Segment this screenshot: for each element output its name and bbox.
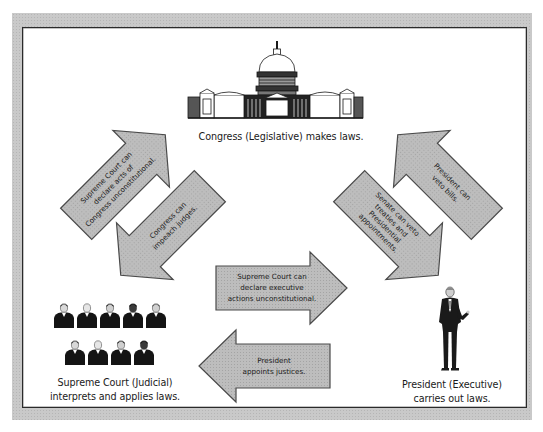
checks-and-balances-diagram: Supreme Court can declare acts of Congre…	[0, 0, 543, 432]
executive-caption: President (Executive) carries out laws.	[392, 378, 512, 406]
arrow-text-line: declare executive	[240, 283, 304, 292]
justice-figure	[100, 304, 120, 328]
arrow-executive-to-judicial: President appoints justices.	[199, 330, 330, 402]
executive-caption-line2: carries out laws.	[392, 392, 512, 406]
justice-figure	[123, 304, 143, 328]
judicial-caption-line2: interprets and applies laws.	[40, 390, 190, 404]
arrow-text-line: President	[257, 356, 291, 365]
justice-figure	[111, 341, 131, 365]
justice-figure	[54, 304, 74, 328]
arrow-text-line: appoints justices.	[243, 367, 306, 376]
legislative-caption: Congress (Legislative) makes laws.	[196, 130, 366, 144]
arrow-text-line: Supreme Court can	[237, 272, 307, 281]
judicial-caption-line1: Supreme Court (Judicial)	[40, 376, 190, 390]
justice-figure	[65, 341, 85, 365]
executive-caption-line1: President (Executive)	[392, 378, 512, 392]
justice-figure	[77, 304, 97, 328]
justice-figure	[88, 341, 108, 365]
capitol-building-icon	[188, 41, 363, 118]
justice-figure	[146, 304, 166, 328]
president-figure-icon	[439, 287, 470, 371]
justice-figure	[134, 341, 154, 365]
judicial-caption: Supreme Court (Judicial) interprets and …	[40, 376, 190, 404]
arrow-text-line: actions unconstitutional.	[228, 294, 317, 303]
justices-group-icon	[54, 304, 166, 365]
arrow-judicial-to-executive: Supreme Court can declare executive acti…	[216, 252, 347, 324]
